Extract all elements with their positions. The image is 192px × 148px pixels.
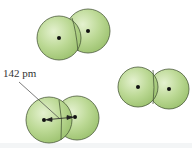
molecule-bottom-left bbox=[19, 82, 99, 143]
bond-length-label: 142 pm bbox=[3, 67, 36, 79]
nucleus bbox=[57, 36, 61, 40]
nucleus bbox=[86, 29, 90, 33]
nucleus bbox=[136, 85, 140, 89]
nucleus bbox=[167, 87, 171, 91]
molecule-top bbox=[37, 9, 110, 60]
molecule-right bbox=[118, 67, 189, 109]
